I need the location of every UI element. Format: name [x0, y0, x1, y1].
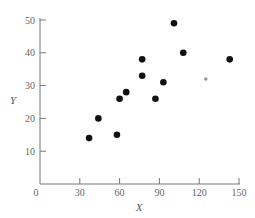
x-axis: 0306090120150	[34, 178, 247, 198]
data-point	[123, 89, 130, 96]
data-point	[180, 50, 187, 57]
data-point	[171, 20, 178, 27]
y-tick-label: 50	[25, 15, 35, 26]
data-points	[86, 20, 233, 141]
y-tick-label: 20	[25, 113, 35, 124]
y-tick-label: 30	[25, 80, 35, 91]
data-point	[86, 135, 93, 142]
x-tick-label: 120	[192, 187, 207, 198]
data-point	[139, 72, 146, 79]
scatter-plot: 1020304050 0306090120150 Y X	[0, 0, 255, 218]
y-tick-label: 10	[25, 146, 35, 157]
x-tick-label: 0	[34, 187, 39, 198]
data-point	[116, 95, 123, 102]
x-tick-label: 90	[154, 187, 164, 198]
data-point	[139, 56, 146, 63]
y-axis-label: Y	[10, 94, 18, 106]
data-point	[152, 95, 159, 102]
data-point	[160, 79, 167, 86]
data-point	[204, 77, 208, 81]
data-point	[114, 132, 121, 139]
x-tick-label: 60	[115, 187, 125, 198]
x-tick-label: 30	[75, 187, 85, 198]
y-axis: 1020304050	[25, 15, 46, 185]
y-tick-label: 40	[25, 47, 35, 58]
x-tick-label: 150	[232, 187, 247, 198]
x-axis-label: X	[135, 201, 144, 213]
data-point	[95, 115, 102, 122]
data-point	[226, 56, 233, 63]
